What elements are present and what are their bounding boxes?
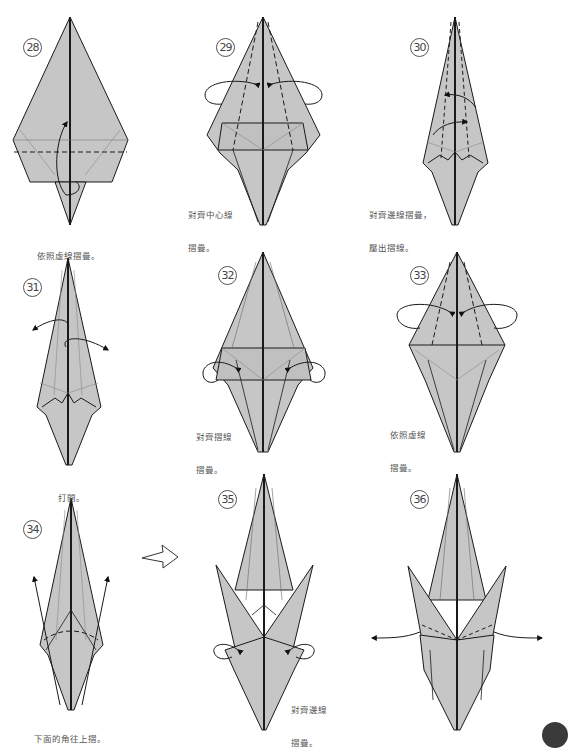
caption-line: 對齊中心線 — [188, 210, 233, 221]
diagram-step-31 — [33, 258, 108, 465]
caption-step-29: 對齊中心線 摺疊。 — [188, 188, 233, 265]
page-corner-marker — [542, 722, 568, 748]
caption-step-34: 下面的角往上摺。 — [34, 712, 106, 752]
step-number-31: 31 — [23, 278, 42, 297]
caption-line: 打開。 — [58, 493, 85, 504]
step-number-34: 34 — [23, 520, 42, 539]
caption-line: 摺疊。 — [196, 465, 232, 476]
caption-step-33: 依照虛線 摺疊。 — [390, 408, 426, 485]
step-number-35: 35 — [218, 490, 237, 509]
caption-line: 壓出摺線。 — [369, 243, 432, 254]
step-number-30: 30 — [410, 38, 429, 57]
caption-line: 對齊摺線 — [196, 432, 232, 443]
caption-step-32: 對齊摺線 摺疊。 — [196, 410, 232, 487]
caption-step-30: 對齊邊線摺疊， 壓出摺線。 — [369, 188, 432, 265]
caption-step-28: 依照虛線摺疊。 — [37, 229, 100, 273]
caption-line: 摺疊。 — [291, 738, 327, 749]
caption-line: 依照虛線摺疊。 — [37, 251, 100, 262]
diagram-step-30 — [423, 17, 488, 225]
caption-line: 依照虛線 — [390, 430, 426, 441]
caption-line: 摺疊。 — [390, 463, 426, 474]
caption-step-35: 對齊邊線 摺疊。 — [291, 683, 327, 752]
hollow-right-arrow-icon — [142, 545, 178, 568]
step-number-36: 36 — [410, 490, 429, 509]
step-number-33: 33 — [410, 266, 429, 285]
caption-line: 摺疊。 — [188, 243, 233, 254]
step-number-29: 29 — [216, 38, 235, 57]
caption-line: 下面的角往上摺。 — [34, 734, 106, 745]
step-number-32: 32 — [218, 266, 237, 285]
caption-line: 對齊邊線摺疊， — [369, 210, 432, 221]
step-number-28: 28 — [23, 38, 42, 57]
caption-line: 對齊邊線 — [291, 705, 327, 716]
caption-step-31: 打開。 — [58, 471, 85, 515]
diagram-step-36 — [372, 474, 542, 730]
diagram-step-34 — [34, 498, 108, 710]
